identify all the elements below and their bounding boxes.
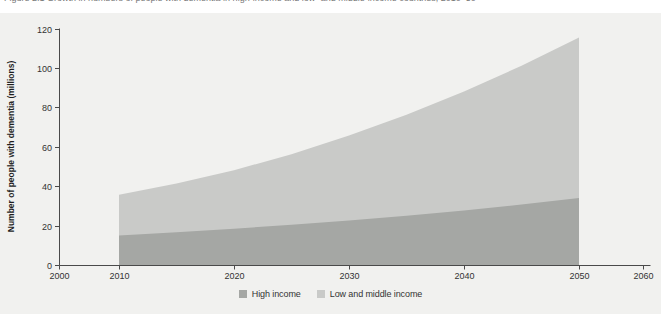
- legend-swatch-high-income: [239, 290, 247, 298]
- x-tick-label: 2010: [109, 271, 129, 281]
- screenshot-root: Figure 2.1 Growth in numbers of people w…: [0, 0, 661, 314]
- x-tick-label: 2020: [224, 271, 244, 281]
- y-axis-title: Number of people with dementia (millions…: [6, 27, 17, 267]
- dementia-stacked-area-chart: 2000201020202030204020502060 02040608010…: [0, 0, 661, 314]
- x-tick-label: 2030: [339, 271, 359, 281]
- legend-item-low-middle-income: Low and middle income: [317, 289, 422, 299]
- legend-label-low-middle-income: Low and middle income: [330, 289, 422, 299]
- chart-areas: [119, 38, 579, 265]
- legend-swatch-low-middle-income: [317, 290, 325, 298]
- y-tick-label: 100: [37, 64, 52, 74]
- x-tick-label: 2000: [49, 271, 69, 281]
- y-tick-label: 60: [42, 143, 52, 153]
- x-axis-ticks: 2000201020202030204020502060: [49, 266, 653, 282]
- y-axis-ticks: 020406080100120: [37, 25, 60, 271]
- y-tick-label: 120: [37, 25, 52, 35]
- x-tick-label: 2040: [454, 271, 474, 281]
- y-tick-label: 80: [42, 103, 52, 113]
- x-tick-label: 2050: [569, 271, 589, 281]
- chart-legend: High income Low and middle income: [0, 289, 661, 299]
- legend-item-high-income: High income: [239, 289, 301, 299]
- x-tick-label: 2060: [633, 271, 653, 281]
- y-tick-label: 40: [42, 182, 52, 192]
- y-tick-label: 20: [42, 222, 52, 232]
- y-tick-label: 0: [47, 261, 52, 271]
- legend-label-high-income: High income: [252, 289, 301, 299]
